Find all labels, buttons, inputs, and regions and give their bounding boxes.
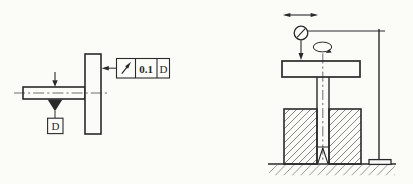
- indicator-stand: [369, 29, 391, 164]
- drawing-callout-view: D 0.1 D: [14, 54, 170, 134]
- fcf-leader-arrow-icon: [102, 66, 117, 71]
- diagram-canvas: D 0.1 D: [0, 0, 413, 184]
- ground-hatching: [269, 165, 395, 176]
- rotation-arrow-icon: [313, 42, 331, 53]
- fixture-block-left: [284, 109, 317, 164]
- probe-arrow-icon: [299, 40, 304, 60]
- datum-arrow-head-icon: [52, 80, 57, 87]
- datum-indicator: D: [48, 72, 63, 134]
- dial-indicator-icon: [294, 26, 308, 40]
- datum-label: D: [51, 120, 59, 132]
- flange-outline: [85, 54, 101, 134]
- tolerance-value: 0.1: [139, 63, 153, 75]
- stand-base: [369, 160, 391, 165]
- gdt-runout-diagram: D 0.1 D: [0, 0, 413, 184]
- datum-triangle-icon: [48, 100, 63, 112]
- fixture-block-right: [329, 109, 361, 164]
- workpiece-flange: [282, 61, 360, 77]
- feature-control-frame: 0.1 D: [117, 59, 170, 79]
- fcf-datum-label: D: [160, 63, 168, 75]
- measurement-setup-view: [268, 13, 396, 175]
- traverse-arrow-icon: [283, 13, 318, 17]
